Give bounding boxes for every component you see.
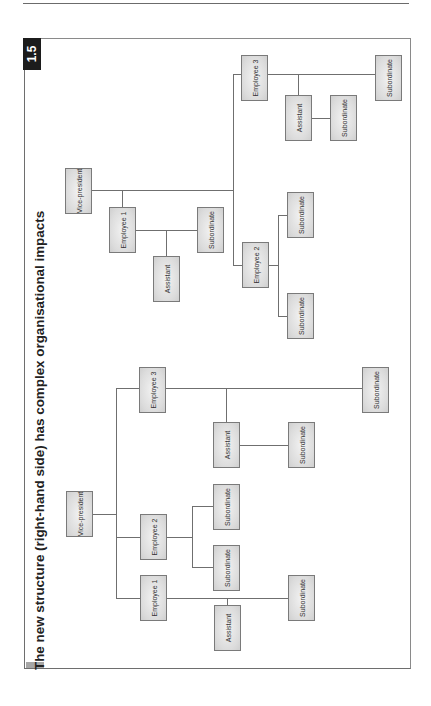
org-node-employee-1: Employee 1	[109, 207, 136, 253]
connector	[239, 445, 288, 446]
org-node-employee-2: Employee 2	[242, 242, 269, 288]
connector	[267, 74, 375, 75]
org-node-employee-3: Employee 3	[139, 367, 166, 413]
org-node-subordinate: Subordinate	[197, 207, 224, 253]
connector	[166, 230, 167, 256]
connector	[122, 190, 123, 207]
org-node-subordinate: Subordinate	[213, 545, 240, 591]
connector	[278, 215, 279, 317]
org-node-assistant: Assistant	[285, 95, 312, 141]
org-node-employee-2: Employee 2	[140, 514, 167, 560]
connector	[91, 190, 233, 191]
connector	[192, 567, 213, 568]
figure-number: 1.5	[25, 46, 39, 63]
org-node-assistant: Assistant	[153, 256, 180, 302]
connector	[92, 514, 116, 515]
page-top-rule	[23, 3, 409, 4]
org-node-vice-president: Vice-president	[66, 491, 93, 537]
connector	[268, 265, 278, 266]
org-node-assistant: Assistant	[214, 605, 241, 651]
org-node-subordinate: Subordinate	[330, 95, 357, 141]
connector	[116, 598, 140, 599]
org-node-subordinate: Subordinate	[213, 484, 240, 530]
connector	[165, 388, 362, 389]
connector	[278, 316, 287, 317]
connector	[116, 388, 140, 389]
figure-title-text: The new structure (right-hand side) has …	[32, 211, 47, 670]
connector	[165, 537, 192, 538]
org-node-vice-president: Vice-president	[65, 168, 92, 214]
connector	[233, 74, 241, 75]
org-node-employee-3: Employee 3	[241, 55, 268, 101]
connector	[227, 598, 228, 605]
connector	[226, 388, 227, 422]
org-node-subordinate: Subordinate	[287, 293, 314, 339]
org-node-employee-1: Employee 1	[140, 575, 167, 621]
org-node-subordinate: Subordinate	[288, 575, 315, 621]
trunk-connector	[233, 74, 234, 266]
connector	[192, 506, 213, 507]
org-node-subordinate: Subordinate	[287, 192, 314, 238]
connector	[233, 265, 242, 266]
org-node-subordinate: Subordinate	[288, 422, 315, 468]
org-node-subordinate: Subordinate	[375, 55, 402, 101]
org-node-subordinate: Subordinate	[362, 367, 389, 413]
trunk-connector	[116, 388, 117, 599]
connector	[192, 506, 193, 568]
connector	[311, 118, 330, 119]
connector	[278, 215, 287, 216]
connector	[298, 74, 299, 95]
org-node-assistant: Assistant	[213, 422, 240, 468]
connector	[116, 537, 140, 538]
figure-number-badge: 1.5	[23, 38, 41, 70]
